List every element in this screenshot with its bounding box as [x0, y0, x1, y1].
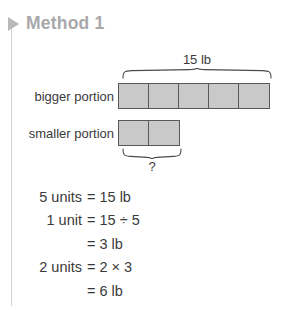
equation-rhs: = 3 lb	[87, 233, 123, 256]
bar-row-label: bigger portion	[0, 89, 118, 104]
bar-unit-cell	[209, 84, 239, 108]
equation-rhs: = 6 lb	[87, 280, 123, 303]
method-header: Method 1	[8, 13, 104, 34]
bar-unit-cell	[149, 121, 179, 145]
bar-unit-cell	[149, 84, 179, 108]
brace-total-icon	[122, 68, 272, 79]
bar-model-diagram: 15 lb bigger portion smaller portion ?	[0, 52, 286, 174]
equation-rhs: = 2 × 3	[87, 256, 132, 279]
bar-unit-cell	[179, 84, 209, 108]
equation-lhs: 2 units	[22, 256, 87, 279]
equation-rhs: = 15 ÷ 5	[87, 209, 140, 232]
total-label: 15 lb	[122, 52, 272, 67]
bar-bigger-portion	[118, 83, 270, 109]
page-title: Method 1	[26, 13, 104, 34]
triangle-right-icon	[8, 17, 19, 31]
equation-line: 2 units = 2 × 3	[22, 256, 140, 279]
equation-lhs: 5 units	[22, 186, 87, 209]
equation-rhs: = 15 lb	[87, 186, 131, 209]
equation-line: 5 units = 15 lb	[22, 186, 140, 209]
equation-lhs: 1 unit	[22, 209, 87, 232]
bar-row-bigger-portion: bigger portion	[0, 83, 270, 109]
bar-unit-cell	[119, 84, 149, 108]
bar-unit-cell	[239, 84, 269, 108]
bar-smaller-portion	[118, 120, 180, 146]
unknown-value-label: ?	[122, 159, 182, 174]
brace-unknown-icon	[122, 148, 182, 159]
bar-row-smaller-portion: smaller portion	[0, 120, 180, 146]
equation-line: = 3 lb	[22, 233, 140, 256]
bar-row-label: smaller portion	[0, 126, 118, 141]
equation-line: = 6 lb	[22, 280, 140, 303]
bar-unit-cell	[119, 121, 149, 145]
equation-line: 1 unit = 15 ÷ 5	[22, 209, 140, 232]
solution-equations: 5 units = 15 lb 1 unit = 15 ÷ 5 = 3 lb 2…	[22, 186, 140, 303]
